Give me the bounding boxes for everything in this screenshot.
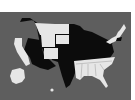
state-ak — [10, 68, 25, 84]
state-wy — [41, 35, 55, 47]
state-hi — [50, 88, 53, 91]
state-co — [44, 48, 58, 59]
us-choropleth-map — [0, 0, 135, 100]
state-nd — [55, 24, 69, 34]
state-sd — [56, 35, 69, 44]
region-southeast-white — [74, 57, 115, 88]
